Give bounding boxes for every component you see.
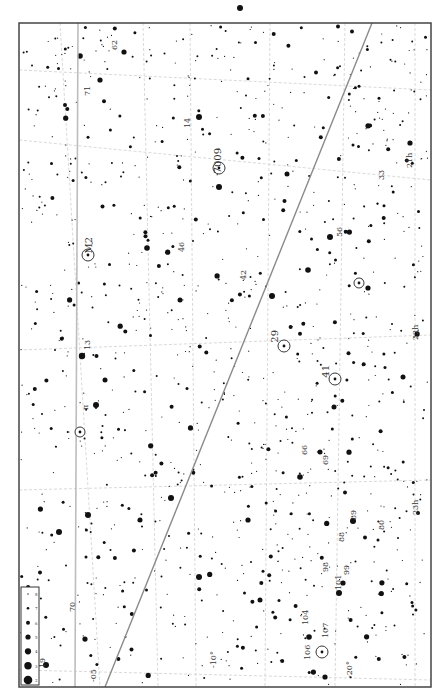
star bbox=[21, 349, 22, 350]
star bbox=[34, 428, 35, 429]
star bbox=[41, 413, 43, 415]
star bbox=[129, 145, 132, 148]
chart-label: 56 bbox=[335, 227, 344, 237]
star bbox=[382, 119, 383, 120]
star bbox=[251, 473, 252, 474]
star bbox=[237, 638, 239, 640]
star bbox=[84, 59, 85, 60]
star bbox=[35, 290, 38, 293]
star bbox=[182, 218, 183, 219]
star bbox=[352, 144, 355, 147]
star bbox=[278, 399, 279, 400]
star bbox=[71, 289, 72, 290]
star bbox=[281, 208, 285, 212]
star bbox=[349, 618, 353, 622]
star bbox=[377, 450, 378, 451]
star bbox=[364, 291, 365, 292]
bright-star bbox=[365, 285, 370, 290]
star bbox=[170, 462, 171, 463]
star bbox=[100, 368, 101, 369]
star bbox=[209, 228, 211, 230]
star bbox=[276, 488, 278, 490]
star bbox=[386, 147, 390, 151]
star bbox=[310, 343, 311, 344]
star bbox=[123, 605, 126, 608]
star bbox=[248, 200, 249, 201]
star bbox=[195, 60, 196, 61]
chart-label: 14 bbox=[183, 118, 192, 128]
star bbox=[262, 400, 263, 401]
star bbox=[287, 534, 288, 535]
star bbox=[54, 38, 56, 40]
star bbox=[280, 633, 281, 634]
star bbox=[399, 517, 401, 519]
star bbox=[368, 226, 369, 227]
star bbox=[248, 351, 249, 352]
star bbox=[50, 298, 52, 300]
star bbox=[105, 181, 107, 183]
star bbox=[161, 497, 162, 498]
star bbox=[249, 129, 250, 130]
star bbox=[263, 610, 264, 611]
star bbox=[212, 186, 213, 187]
star bbox=[110, 647, 111, 648]
chart-label: 80 bbox=[377, 520, 386, 530]
star bbox=[373, 624, 375, 626]
star bbox=[297, 358, 298, 359]
star bbox=[302, 557, 303, 558]
star bbox=[221, 563, 223, 565]
star bbox=[90, 531, 92, 533]
star bbox=[177, 160, 179, 162]
star bbox=[118, 114, 121, 117]
star bbox=[290, 92, 291, 93]
star bbox=[202, 134, 204, 136]
star bbox=[125, 429, 126, 430]
star bbox=[239, 537, 240, 538]
chart-label: 33 bbox=[377, 170, 386, 180]
star bbox=[368, 379, 369, 380]
bright-star bbox=[79, 353, 85, 359]
star bbox=[60, 645, 62, 647]
star bbox=[149, 27, 150, 28]
star bbox=[273, 161, 275, 163]
star bbox=[259, 581, 263, 585]
star bbox=[53, 312, 54, 313]
star bbox=[141, 252, 142, 253]
star bbox=[91, 523, 93, 525]
star bbox=[223, 382, 225, 384]
star bbox=[328, 200, 330, 202]
chart-label: 42 bbox=[239, 270, 248, 280]
star bbox=[89, 71, 90, 72]
star bbox=[115, 352, 116, 353]
star bbox=[124, 376, 125, 377]
star bbox=[396, 162, 397, 163]
star bbox=[178, 383, 180, 385]
star bbox=[171, 245, 174, 248]
star bbox=[222, 259, 223, 260]
star bbox=[238, 476, 241, 479]
star bbox=[367, 239, 371, 243]
star bbox=[328, 542, 329, 543]
star bbox=[211, 55, 213, 57]
star bbox=[26, 394, 27, 395]
star bbox=[270, 172, 272, 174]
star bbox=[412, 481, 415, 484]
bright-star bbox=[305, 267, 311, 273]
chart-label: π bbox=[81, 405, 90, 410]
star bbox=[83, 635, 84, 636]
deep-sky-core bbox=[321, 651, 324, 654]
star bbox=[273, 69, 274, 70]
star bbox=[162, 287, 163, 288]
star bbox=[161, 575, 163, 577]
star bbox=[31, 222, 32, 223]
star bbox=[139, 461, 140, 462]
star bbox=[280, 494, 281, 495]
star bbox=[273, 104, 274, 105]
star bbox=[346, 450, 351, 455]
star bbox=[393, 139, 394, 140]
star bbox=[219, 26, 222, 29]
star bbox=[188, 75, 189, 76]
bright-star bbox=[196, 574, 202, 580]
star bbox=[146, 282, 147, 283]
star bbox=[366, 128, 367, 129]
